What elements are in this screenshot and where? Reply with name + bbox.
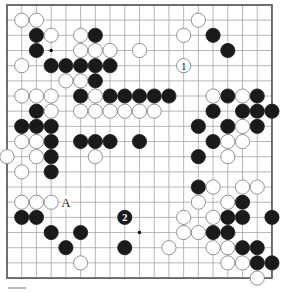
black-stone	[88, 59, 102, 73]
black-stone	[29, 28, 43, 42]
black-stone	[59, 241, 73, 255]
black-stone	[191, 119, 205, 133]
white-stone	[221, 150, 235, 164]
white-stone	[88, 104, 102, 118]
black-stone	[147, 89, 161, 103]
black-stone	[235, 210, 249, 224]
black-stone	[250, 256, 264, 270]
white-stone	[147, 104, 161, 118]
black-stone	[250, 104, 264, 118]
white-stone	[250, 180, 264, 194]
diagram-caption-cropped	[8, 287, 26, 289]
white-stone	[15, 59, 29, 73]
black-stone	[250, 241, 264, 255]
white-stone	[74, 43, 88, 57]
black-stone	[206, 28, 220, 42]
white-stone	[191, 195, 205, 209]
black-stone	[162, 89, 176, 103]
white-stone	[250, 271, 264, 285]
move-number-label: 2	[122, 211, 128, 223]
black-stone	[265, 256, 279, 270]
white-stone	[74, 74, 88, 88]
black-stone	[29, 43, 43, 57]
white-stone	[88, 89, 102, 103]
black-stone	[206, 134, 220, 148]
white-stone	[206, 241, 220, 255]
black-stone	[191, 150, 205, 164]
white-stone	[44, 104, 58, 118]
black-stone	[29, 210, 43, 224]
black-stone	[221, 89, 235, 103]
white-stone	[206, 89, 220, 103]
white-stone	[177, 225, 191, 239]
black-stone	[74, 89, 88, 103]
white-stone	[235, 119, 249, 133]
white-stone	[74, 104, 88, 118]
white-stone	[162, 241, 176, 255]
white-stone	[235, 134, 249, 148]
black-stone	[88, 28, 102, 42]
black-stone	[44, 165, 58, 179]
black-stone	[44, 150, 58, 164]
black-stone	[132, 89, 146, 103]
white-stone	[191, 13, 205, 27]
black-stone	[221, 43, 235, 57]
black-stone	[221, 210, 235, 224]
white-stone	[103, 43, 117, 57]
white-stone	[29, 89, 43, 103]
black-stone	[44, 225, 58, 239]
black-stone	[74, 59, 88, 73]
star-point	[138, 231, 142, 235]
white-stone	[221, 241, 235, 255]
white-stone	[132, 43, 146, 57]
white-stone	[88, 150, 102, 164]
white-stone	[235, 89, 249, 103]
black-stone	[221, 225, 235, 239]
white-stone	[103, 104, 117, 118]
white-stone	[191, 225, 205, 239]
black-stone	[265, 104, 279, 118]
white-stone	[221, 134, 235, 148]
white-stone	[15, 134, 29, 148]
black-stone	[29, 119, 43, 133]
letter-mark: A	[61, 195, 71, 210]
white-stone	[29, 195, 43, 209]
black-stone	[118, 241, 132, 255]
white-stone	[15, 13, 29, 27]
white-stone	[88, 43, 102, 57]
white-stone	[177, 28, 191, 42]
black-stone	[103, 59, 117, 73]
white-stone	[29, 150, 43, 164]
white-stone	[59, 74, 73, 88]
black-stone	[206, 104, 220, 118]
white-stone	[206, 210, 220, 224]
white-stone	[221, 256, 235, 270]
black-stone	[103, 89, 117, 103]
white-stone	[44, 195, 58, 209]
star-point	[49, 49, 53, 53]
black-stone	[265, 210, 279, 224]
go-board: 12A	[0, 0, 284, 293]
black-stone	[221, 119, 235, 133]
white-stone	[74, 28, 88, 42]
black-stone	[15, 119, 29, 133]
white-stone	[118, 104, 132, 118]
white-stone	[29, 134, 43, 148]
white-stone	[15, 89, 29, 103]
black-stone	[59, 59, 73, 73]
black-stone	[191, 180, 205, 194]
black-stone	[44, 59, 58, 73]
white-stone	[235, 180, 249, 194]
white-stone	[132, 104, 146, 118]
black-stone	[44, 134, 58, 148]
black-stone	[132, 134, 146, 148]
black-stone	[88, 74, 102, 88]
black-stone	[15, 210, 29, 224]
black-stone	[44, 119, 58, 133]
white-stone	[44, 28, 58, 42]
white-stone	[177, 210, 191, 224]
black-stone	[250, 119, 264, 133]
white-stone	[206, 180, 220, 194]
white-stone	[74, 256, 88, 270]
black-stone	[29, 104, 43, 118]
